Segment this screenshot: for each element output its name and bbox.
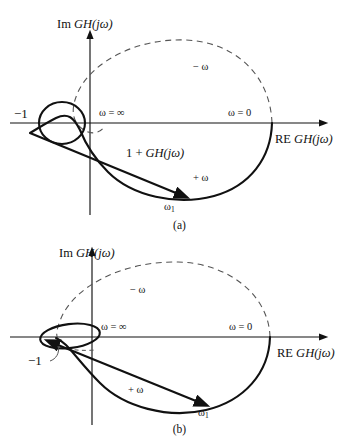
label-omega-zero-a: ω = 0: [228, 108, 251, 119]
label-negative-omega-b: − ω: [130, 285, 145, 296]
locus-negative-omega-a: [73, 40, 272, 133]
label-omega-infinity-a: ω = ∞: [99, 108, 125, 119]
label-minus-one-b: −1: [28, 354, 42, 367]
nyquist-panel-b: Im GH(jω) RE GH(jω) −1 ω = ∞ ω = 0 − ω +…: [0, 235, 359, 441]
axis-label-real-a: RE GH(jω): [275, 133, 333, 146]
caption-panel-b: (b): [0, 423, 359, 435]
nyquist-plot-a: [0, 0, 359, 235]
axis-label-imaginary-a: Im GH(jω): [57, 18, 113, 31]
axis-label-imaginary-b: Im GH(jω): [59, 247, 115, 260]
caption-panel-a: (a): [0, 219, 359, 231]
label-omega-zero-b: ω = 0: [229, 322, 252, 333]
locus-positive-omega-b: [56, 337, 270, 413]
label-omega-one-a: ω1: [164, 202, 175, 213]
label-negative-omega-a: − ω: [193, 62, 208, 73]
label-positive-omega-b: + ω: [128, 385, 143, 396]
vector-1-plus-gh-a: [30, 133, 176, 193]
vector-critical-to-omega1-b: [58, 345, 196, 401]
nyquist-panel-a: Im GH(jω) RE GH(jω) −1 ω = ∞ ω = 0 − ω +…: [0, 0, 359, 235]
label-minus-one-a: −1: [14, 107, 28, 120]
label-vector-1-plus-gh-a: 1 + GH(jω): [126, 147, 184, 160]
label-omega-one-b: ω1: [198, 408, 209, 419]
label-positive-omega-a: + ω: [193, 173, 208, 184]
nyquist-plot-b: [0, 235, 359, 441]
axis-label-real-b: RE GH(jω): [277, 347, 335, 360]
label-omega-infinity-b: ω = ∞: [101, 322, 127, 333]
